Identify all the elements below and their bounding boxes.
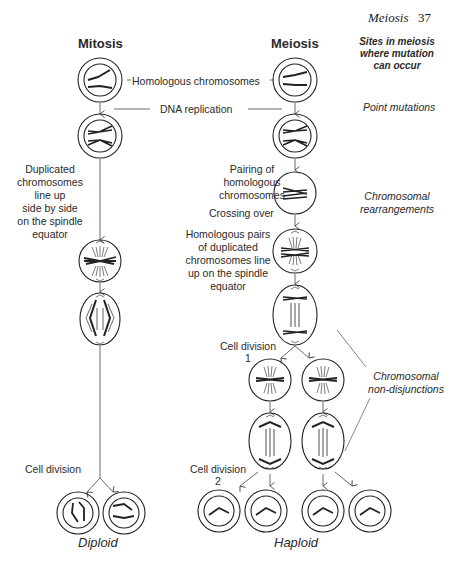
meiosis-cell-crossing-over (274, 172, 316, 214)
meiosis-cell-metaphase-1 (273, 229, 317, 273)
arrow (87, 478, 100, 492)
nondisjunction-pointer-2 (345, 398, 370, 451)
arrow (335, 472, 352, 486)
arrow (281, 346, 295, 358)
haploid-cell-1 (198, 490, 240, 532)
arrow (100, 478, 113, 492)
arrow (295, 346, 309, 358)
meiosis-cell-anaphase-2-left (249, 413, 291, 469)
arrow (240, 472, 258, 486)
meiosis-cell-duplicated (273, 114, 317, 158)
mitosis-cell-anaphase (80, 293, 120, 345)
haploid-cell-4 (349, 490, 391, 532)
nondisjunction-pointer-1 (337, 330, 366, 367)
diploid-cell-right (103, 492, 145, 534)
meiosis-cell-metaphase-2-left (249, 359, 291, 401)
mitosis-cell-metaphase (79, 240, 121, 282)
meiosis-cell-metaphase-2-right (302, 359, 344, 401)
meiosis-cell-anaphase-1 (273, 285, 317, 345)
mitosis-cell-homologous (78, 58, 122, 102)
mitosis-cell-duplicated (78, 114, 122, 158)
meiosis-cell-homologous (273, 58, 317, 102)
diagram-graphics (0, 0, 465, 571)
meiosis-cell-anaphase-2-right (302, 413, 344, 469)
haploid-cell-3 (302, 490, 344, 532)
haploid-cell-2 (245, 490, 287, 532)
diploid-cell-left (57, 492, 99, 534)
